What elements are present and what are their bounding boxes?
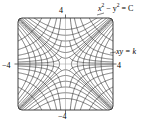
leader-line-hyperbola [97,13,104,15]
axis-tick-label-left: −4 [2,62,11,70]
axis-tick-label-right: 4 [117,62,121,70]
hyperbola-figure: 4 −4 −4 4 xy = k x2 − y2 = C [0,0,152,130]
curve-family-label-hyperbola: x2 − y2 = C [98,5,133,13]
hyperbola-label-mid: − y [104,4,117,13]
axis-tick-label-top: 4 [59,7,63,15]
plot-canvas [0,0,152,130]
hyperbola-label-tail: = C [120,4,134,13]
axis-tick-label-bottom: −4 [58,113,67,121]
curve-family-label-xy: xy = k [116,48,136,56]
